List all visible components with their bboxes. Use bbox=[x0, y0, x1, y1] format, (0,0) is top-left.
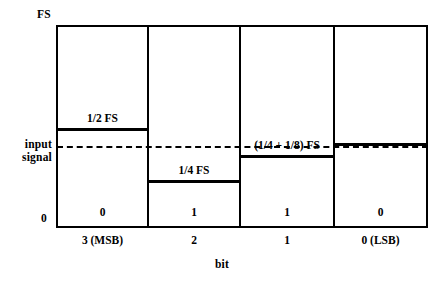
bit-value-3: 0 bbox=[57, 206, 148, 219]
level-bar-bit-3 bbox=[57, 128, 148, 131]
successive-approximation-adc-diagram: FS 0 input signal 1/2 FS 1/4 FS (1/4 + 1… bbox=[0, 0, 444, 285]
y-axis-top-label: FS bbox=[37, 8, 51, 21]
bit-tick-label-1: 1 bbox=[240, 234, 334, 247]
level-caption-bit-3: 1/2 FS bbox=[57, 112, 148, 125]
level-caption-bit-1: (1/4 + 1/8) FS bbox=[240, 139, 334, 152]
bit-tick-label-0: 0 (LSB) bbox=[334, 234, 427, 247]
input-signal-label-line1: input bbox=[10, 138, 52, 151]
level-bar-bit-2 bbox=[148, 180, 240, 183]
level-bar-bit-1 bbox=[240, 155, 334, 158]
level-caption-bit-2: 1/4 FS bbox=[148, 164, 240, 177]
bit-tick-label-2: 2 bbox=[148, 234, 240, 247]
level-bar-bit-0 bbox=[334, 143, 427, 146]
plot-frame bbox=[56, 25, 428, 228]
bit-tick-label-3: 3 (MSB) bbox=[57, 234, 148, 247]
bit-value-1: 1 bbox=[240, 206, 334, 219]
input-signal-label-line2: signal bbox=[10, 151, 52, 164]
column-divider-2 bbox=[239, 25, 241, 228]
x-axis-title: bit bbox=[0, 258, 444, 271]
bit-value-0: 0 bbox=[334, 206, 427, 219]
y-axis-bottom-label: 0 bbox=[41, 212, 47, 225]
bit-value-2: 1 bbox=[148, 206, 240, 219]
column-divider-1 bbox=[147, 25, 149, 228]
column-divider-3 bbox=[333, 25, 335, 228]
